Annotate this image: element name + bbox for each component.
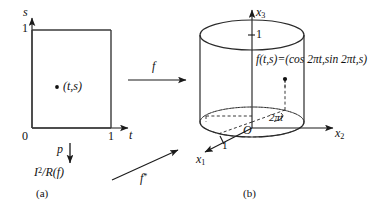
cylinder-formula-label: f(t,s)=(cos 2πt,sin 2πt,s) [256, 54, 367, 66]
square-point-label: (t,s) [63, 80, 82, 92]
induced-map-f-star-arrow-label: I f* [140, 172, 147, 184]
x3-axis-subscript: 3 [261, 11, 265, 20]
panel-a-tag: (a) [36, 188, 48, 199]
unit-square-axes [32, 18, 128, 128]
cylinder-origin-label: O [243, 124, 252, 136]
angle-label: 2πt [269, 112, 283, 123]
quotient-p-arrow-label: p [57, 143, 63, 155]
quotient-space-label: I2/R(f) [34, 166, 64, 178]
x1-unit-label: 1 [222, 140, 228, 151]
figure-artwork [0, 0, 386, 220]
figure-root: s 1 0 1 t (t,s) f p I f* I2/R(f) (a) (b)… [0, 0, 386, 220]
x1-axis-label: x1 [196, 153, 205, 167]
s-axis-label: s [23, 6, 28, 18]
f-star-asterisk: * [143, 172, 147, 181]
square-interior-point [55, 85, 59, 89]
quotient-space-rest: /R(f) [42, 165, 64, 179]
cylinder-axes [205, 10, 333, 152]
square-origin-label: 0 [22, 130, 28, 142]
x2-axis-label: x2 [335, 127, 344, 141]
x3-unit-label: 1 [256, 28, 262, 40]
x3-axis-label: x3 [256, 6, 265, 20]
panel-b-tag: (b) [243, 188, 256, 199]
s-axis-unit-tick-label: 1 [22, 22, 28, 34]
t-axis-unit-tick-label: 1 [108, 130, 114, 142]
x1-axis-subscript: 1 [201, 158, 205, 167]
map-f-arrow-label: f [152, 60, 155, 72]
t-axis-label: t [129, 129, 132, 141]
cylinder-image-point [283, 77, 287, 81]
x2-axis-subscript: 2 [340, 132, 344, 141]
